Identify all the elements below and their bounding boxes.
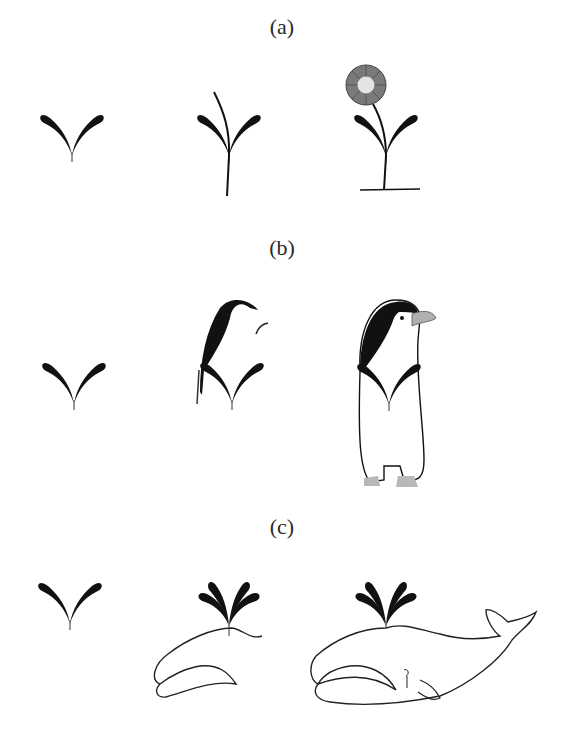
sprout-glyph-a1: [40, 115, 104, 162]
partial-whale-c2: [154, 582, 262, 697]
figure-canvas: [0, 0, 564, 738]
whale-c3: [311, 582, 536, 705]
flower-head-icon: [346, 65, 386, 105]
sprout-glyph-b1: [42, 363, 106, 410]
penguin-b3: [357, 300, 436, 487]
flower-a3: [346, 65, 420, 190]
beak-icon: [412, 311, 436, 326]
sprout-with-stem-a2: [197, 92, 261, 196]
partial-penguin-b2: [197, 300, 268, 410]
sprout-glyph-c1: [38, 583, 102, 630]
